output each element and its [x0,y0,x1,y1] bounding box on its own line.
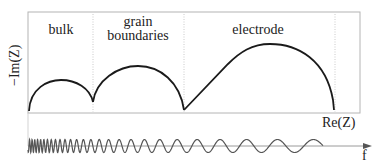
grain-label-line2: boundaries [107,29,168,43]
grain-boundary-semicircle [93,66,184,110]
x-axis-label: Re(Z) [322,116,355,130]
bulk-label: bulk [49,23,74,37]
frequency-label: f [362,149,367,163]
bulk-semicircle [29,80,93,111]
grain-label-line1: grain [124,15,153,29]
electrode-curve [184,44,334,110]
electrode-label: electrode [232,23,283,37]
plot-frame [28,12,360,113]
y-axis-label: −Im(Z) [8,45,22,86]
impedance-diagram: bulk grain boundaries electrode −Im(Z) R… [0,0,378,167]
